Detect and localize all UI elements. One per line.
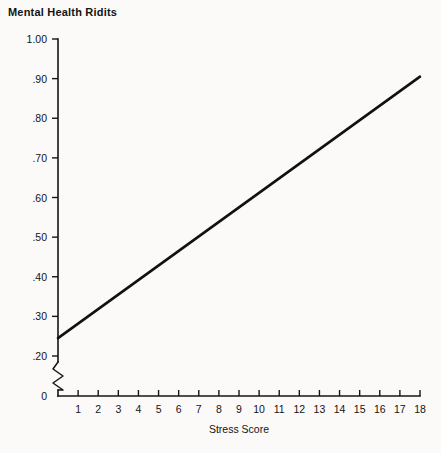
y-axis-tick-label: .60 — [0, 192, 47, 204]
x-axis-tick-label: 13 — [314, 403, 326, 415]
x-axis-title: Stress Score — [209, 423, 269, 435]
x-axis-tick-label: 18 — [414, 403, 426, 415]
x-axis-tick-label: 4 — [136, 403, 142, 415]
y-axis-tick-label: .80 — [0, 112, 47, 124]
x-axis-tick-label: 15 — [354, 403, 366, 415]
chart-figure: Mental Health Ridits 1.00.90.80.70.60.50… — [0, 0, 441, 453]
x-axis-tick-label: 6 — [176, 403, 182, 415]
x-axis-tick-label: 7 — [196, 403, 202, 415]
data-series-group — [58, 77, 420, 339]
x-axis-tick-label: 3 — [115, 403, 121, 415]
y-axis-tick-label: .30 — [0, 310, 47, 322]
x-axis-tick-label: 2 — [95, 403, 101, 415]
y-axis-tick-label: .90 — [0, 73, 47, 85]
x-axis-tick-label: 10 — [253, 403, 265, 415]
y-axis-tick-label: 0 — [0, 390, 47, 402]
y-axis-tick-label: .40 — [0, 271, 47, 283]
y-axis-tick-label: 1.00 — [0, 33, 47, 45]
x-axis-tick-label: 12 — [293, 403, 305, 415]
data-line-series — [58, 77, 420, 339]
y-axis-tick-label: .50 — [0, 231, 47, 243]
axes-group — [52, 39, 420, 396]
y-axis-tick-label: .70 — [0, 152, 47, 164]
x-axis-tick-label: 5 — [156, 403, 162, 415]
x-axis-tick-label: 11 — [274, 403, 285, 415]
x-axis-tick-label: 17 — [394, 403, 406, 415]
x-axis-tick-label: 9 — [236, 403, 242, 415]
y-axis-break-icon — [53, 362, 63, 390]
x-axis-tick-label: 16 — [374, 403, 386, 415]
y-axis-break-zigzag — [53, 362, 63, 390]
plot-area — [0, 0, 441, 453]
x-axis-tick-label: 8 — [216, 403, 222, 415]
y-axis-tick-label: .20 — [0, 350, 47, 362]
x-axis-tick-label: 14 — [334, 403, 346, 415]
x-axis-tick-label: 1 — [75, 403, 81, 415]
